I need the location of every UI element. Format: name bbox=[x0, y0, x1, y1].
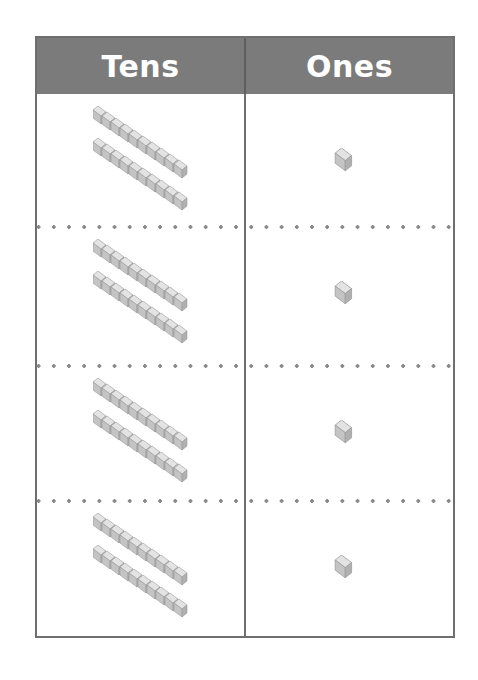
unit-cube-icon bbox=[334, 281, 354, 309]
unit-cube-icon bbox=[334, 555, 354, 583]
ten-rod-block-icon bbox=[93, 545, 197, 627]
chart-header: Tens Ones bbox=[37, 38, 453, 94]
tens-column-header: Tens bbox=[37, 38, 246, 94]
ones-cell bbox=[246, 366, 453, 501]
ten-rod-block-icon bbox=[93, 271, 197, 353]
ten-rod-block-icon bbox=[93, 410, 197, 492]
ones-cell bbox=[246, 501, 453, 638]
tens-cell bbox=[37, 94, 244, 227]
ones-cell bbox=[246, 227, 453, 366]
chart-row bbox=[37, 94, 453, 227]
unit-cube-icon bbox=[334, 420, 354, 448]
chart-row bbox=[37, 227, 453, 366]
place-value-chart: Tens Ones bbox=[35, 36, 455, 638]
tens-cell bbox=[37, 366, 244, 501]
chart-row bbox=[37, 366, 453, 501]
ones-column-header: Ones bbox=[246, 38, 453, 94]
tens-cell bbox=[37, 227, 244, 366]
ten-rod-block-icon bbox=[93, 138, 197, 220]
ones-cell bbox=[246, 94, 453, 227]
tens-cell bbox=[37, 501, 244, 638]
chart-row bbox=[37, 501, 453, 638]
unit-cube-icon bbox=[334, 148, 354, 176]
